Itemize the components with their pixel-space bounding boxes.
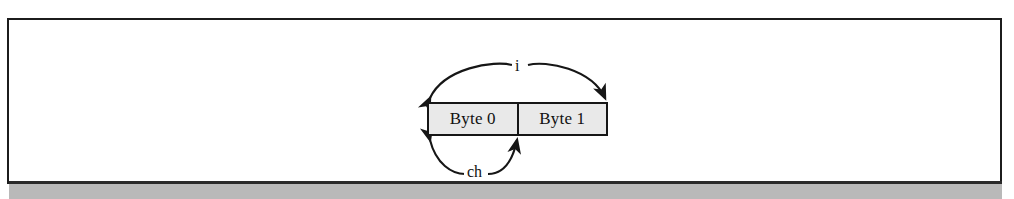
byte-box-1: Byte 1 <box>519 104 607 134</box>
arc-ch-right-segment <box>488 140 517 174</box>
arc-i-left-segment <box>430 64 512 98</box>
bottom-gray-band <box>9 184 1002 199</box>
byte-box-0-label: Byte 0 <box>450 109 496 129</box>
annotation-label-ch: ch <box>464 164 485 180</box>
annotation-label-i: i <box>512 58 522 74</box>
byte-box-0: Byte 0 <box>429 104 519 134</box>
page-frame: Byte 0 Byte 1 i ch <box>7 18 1002 184</box>
arc-i-right-segment <box>528 64 605 98</box>
byte-layout-diagram: Byte 0 Byte 1 i ch <box>404 46 629 191</box>
byte-box-1-label: Byte 1 <box>539 109 585 129</box>
byte-boxes: Byte 0 Byte 1 <box>427 102 608 136</box>
arc-ch-left-segment <box>430 140 465 174</box>
figure-root: Byte 0 Byte 1 i ch <box>0 0 1014 199</box>
